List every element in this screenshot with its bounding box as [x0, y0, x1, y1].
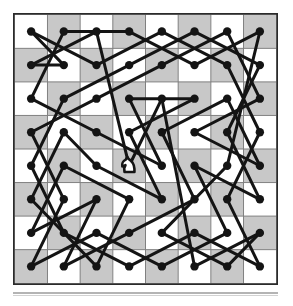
tour-node: [27, 94, 35, 102]
tour-node: [158, 27, 166, 35]
tour-node: [92, 162, 100, 170]
tour-node: [190, 61, 198, 69]
tour-node: [223, 229, 231, 237]
tour-node: [158, 162, 166, 170]
tour-node: [125, 229, 133, 237]
tour-node: [158, 195, 166, 203]
tour-node: [92, 61, 100, 69]
tour-node: [27, 61, 35, 69]
tour-node: [223, 262, 231, 270]
knight-tour-figure: [0, 0, 293, 306]
tour-node: [223, 94, 231, 102]
tour-node: [223, 128, 231, 136]
tour-node: [256, 195, 264, 203]
rule-line-secondary: [13, 295, 278, 296]
tour-node: [190, 128, 198, 136]
tour-node: [190, 229, 198, 237]
tour-node: [223, 61, 231, 69]
tour-node: [223, 27, 231, 35]
tour-node: [223, 195, 231, 203]
tour-node: [158, 128, 166, 136]
tour-node: [256, 128, 264, 136]
tour-node: [92, 195, 100, 203]
tour-node: [256, 162, 264, 170]
tour-node: [60, 128, 68, 136]
tour-node: [27, 162, 35, 170]
tour-node: [223, 162, 231, 170]
tour-node: [60, 229, 68, 237]
tour-node: [92, 94, 100, 102]
tour-node: [190, 262, 198, 270]
tour-node: [158, 229, 166, 237]
horizontal-rule: [13, 292, 278, 297]
tour-node: [27, 195, 35, 203]
tour-node: [27, 128, 35, 136]
tour-node: [125, 262, 133, 270]
tour-node: [60, 27, 68, 35]
tour-node: [60, 195, 68, 203]
board-canvas: [13, 13, 278, 285]
tour-node: [190, 27, 198, 35]
tour-node: [158, 262, 166, 270]
tour-node: [92, 262, 100, 270]
tour-node: [92, 128, 100, 136]
tour-node: [190, 162, 198, 170]
tour-node: [92, 27, 100, 35]
tour-node: [60, 162, 68, 170]
tour-node: [158, 61, 166, 69]
tour-node: [190, 195, 198, 203]
tour-node: [60, 94, 68, 102]
tour-node: [27, 229, 35, 237]
tour-node: [256, 27, 264, 35]
tour-node: [125, 128, 133, 136]
tour-node: [256, 94, 264, 102]
tour-node: [158, 94, 166, 102]
tour-node: [256, 262, 264, 270]
tour-node: [256, 229, 264, 237]
tour-node: [27, 27, 35, 35]
rule-line-primary: [13, 292, 278, 294]
tour-node: [256, 61, 264, 69]
tour-node: [27, 262, 35, 270]
tour-node: [60, 61, 68, 69]
tour-node: [125, 195, 133, 203]
tour-node: [125, 61, 133, 69]
tour-node: [60, 262, 68, 270]
tour-node: [190, 94, 198, 102]
tour-node: [125, 94, 133, 102]
chessboard: [13, 13, 278, 285]
tour-node: [125, 27, 133, 35]
tour-node: [92, 229, 100, 237]
